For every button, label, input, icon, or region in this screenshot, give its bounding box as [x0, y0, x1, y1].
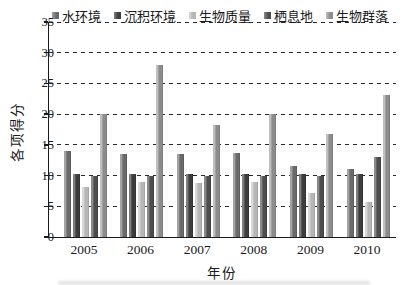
x-tick-label-2009: 2009	[288, 243, 332, 257]
bar-生物质量-2010	[365, 202, 372, 237]
y-tick-label: 10	[24, 170, 54, 183]
legend: 水环境沉积环境生物质量栖息地生物群落	[36, 6, 403, 25]
legend-item-生物群落: 生物群落	[326, 6, 388, 25]
bar-水环境-2005	[64, 151, 71, 237]
bar-沉积环境-2005	[73, 174, 80, 237]
legend-item-生物质量: 生物质量	[189, 6, 251, 25]
x-tick-label-2007: 2007	[175, 243, 219, 257]
gridline-y-25	[49, 83, 396, 84]
y-tick-label: 5	[24, 200, 54, 213]
bar-生物质量-2005	[82, 187, 89, 237]
bar-沉积环境-2009	[299, 174, 306, 237]
y-tick-label: 0	[24, 231, 54, 244]
y-tick-label: 30	[24, 47, 54, 60]
gridline-y-30	[49, 52, 396, 53]
x-tick-label-2008: 2008	[232, 243, 276, 257]
legend-label: 水环境	[62, 6, 101, 25]
y-tick-label: 20	[24, 108, 54, 121]
bar-栖息地-2007	[204, 176, 211, 237]
x-axis-label: 年份	[48, 262, 395, 282]
y-tick-label: 15	[24, 139, 54, 152]
bar-生物质量-2009	[308, 193, 315, 237]
bar-水环境-2009	[290, 166, 297, 237]
bar-生物质量-2008	[251, 182, 258, 237]
x-tick-label-2006: 2006	[119, 243, 163, 257]
legend-label: 沉积环境	[124, 6, 176, 25]
bar-沉积环境-2007	[186, 174, 193, 237]
y-tick-mark	[44, 52, 48, 53]
bar-栖息地-2006	[147, 176, 154, 237]
bar-生物质量-2007	[195, 183, 202, 237]
y-tick-mark	[44, 113, 48, 114]
bar-沉积环境-2010	[356, 174, 363, 237]
bar-水环境-2010	[347, 169, 354, 237]
x-tick-label-2005: 2005	[62, 243, 106, 257]
y-tick-label: 25	[24, 77, 54, 90]
y-axis-label: 各项得分	[6, 72, 26, 192]
plot-area	[48, 22, 396, 238]
bar-水环境-2006	[120, 154, 127, 237]
bar-水环境-2007	[177, 154, 184, 237]
bar-生物群落-2006	[156, 65, 163, 237]
bar-栖息地-2008	[260, 176, 267, 237]
bar-生物群落-2005	[100, 114, 107, 237]
y-tick-mark	[44, 83, 48, 84]
y-tick-label: 35	[24, 16, 54, 29]
legend-label: 生物群落	[336, 6, 388, 25]
bar-生物群落-2010	[383, 95, 390, 238]
bar-沉积环境-2006	[129, 174, 136, 237]
y-tick-mark	[44, 21, 48, 22]
legend-swatch-icon	[114, 12, 121, 19]
x-tick-label-2010: 2010	[345, 243, 389, 257]
legend-swatch-icon	[264, 12, 271, 19]
cutoff-caption-remnant	[58, 281, 370, 285]
legend-label: 生物质量	[199, 6, 251, 25]
y-tick-mark	[44, 175, 48, 176]
bar-栖息地-2005	[91, 176, 98, 237]
bar-生物群落-2009	[326, 134, 333, 237]
legend-swatch-icon	[189, 12, 196, 19]
bar-生物质量-2006	[138, 182, 145, 237]
bar-水环境-2008	[233, 153, 240, 237]
y-tick-mark	[44, 206, 48, 207]
bar-沉积环境-2008	[242, 174, 249, 237]
bar-chart-figure: 各项得分 水环境沉积环境生物质量栖息地生物群落 年份 0510152025303…	[0, 0, 407, 285]
bar-生物群落-2007	[213, 125, 220, 237]
legend-item-栖息地: 栖息地	[264, 6, 313, 25]
legend-swatch-icon	[326, 12, 333, 19]
bar-栖息地-2010	[374, 157, 381, 237]
legend-label: 栖息地	[274, 6, 313, 25]
bar-生物群落-2008	[269, 114, 276, 237]
y-tick-mark	[44, 236, 48, 237]
legend-item-沉积环境: 沉积环境	[114, 6, 176, 25]
y-tick-mark	[44, 144, 48, 145]
legend-item-水环境: 水环境	[52, 6, 101, 25]
bar-栖息地-2009	[317, 176, 324, 237]
